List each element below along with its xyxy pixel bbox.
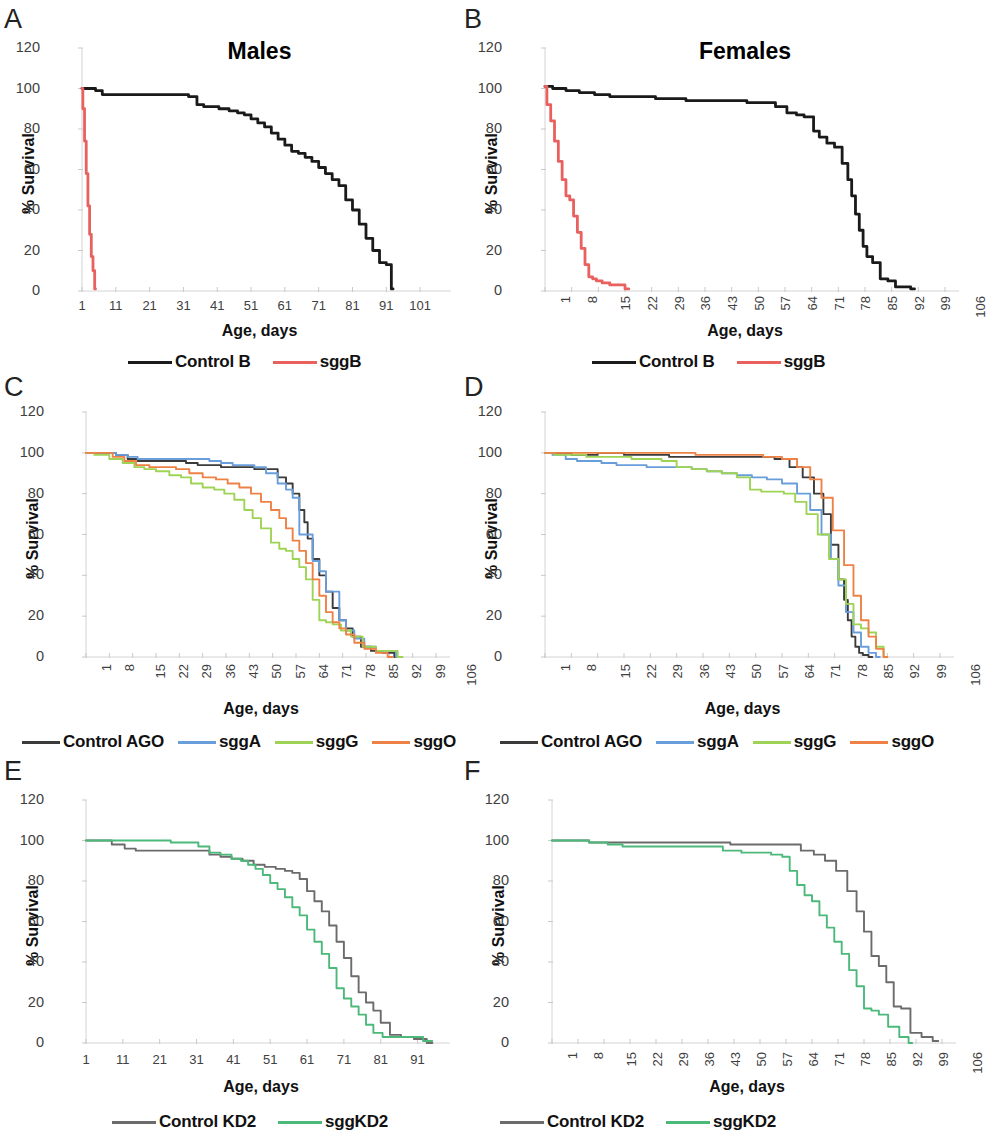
legend-label: sggG (316, 732, 359, 752)
x-tick-b-15: 106 (973, 296, 988, 318)
legend-item-sggo[interactable]: sggO (372, 732, 456, 752)
y-tick-f-5: 100 (475, 832, 509, 848)
y-tick-b-5: 100 (468, 80, 502, 96)
x-tick-f-15: 106 (970, 1052, 985, 1074)
y-tick-d-1: 20 (468, 607, 502, 623)
survival-curve-control-kd2 (86, 841, 432, 1044)
legend-label: sggB (320, 352, 362, 372)
legend-item-sggkd2[interactable]: sggKD2 (666, 1112, 776, 1132)
x-axis-label-b: Age, days (545, 322, 945, 340)
y-tick-f-3: 60 (475, 913, 509, 929)
y-tick-e-6: 120 (10, 791, 44, 807)
x-axis-label-e: Age, days (86, 1078, 436, 1096)
legend-label: sggO (891, 732, 934, 752)
legend-label: sggKD2 (325, 1112, 388, 1132)
y-tick-d-3: 60 (468, 526, 502, 542)
legend-item-sggb[interactable]: sggB (737, 352, 826, 372)
y-tick-a-5: 100 (6, 80, 40, 96)
y-tick-f-4: 80 (475, 872, 509, 888)
survival-curve-sggb (545, 86, 629, 289)
y-tick-a-6: 120 (6, 39, 40, 55)
y-tick-d-4: 80 (468, 485, 502, 501)
y-tick-f-2: 40 (475, 953, 509, 969)
legend-item-sggg[interactable]: sggG (753, 732, 837, 752)
legend-label: sggA (219, 732, 261, 752)
legend-item-control-b[interactable]: Control B (592, 352, 715, 372)
y-tick-d-2: 40 (468, 566, 502, 582)
legend-swatch-control-kd2 (500, 1121, 544, 1124)
y-tick-c-4: 80 (10, 485, 44, 501)
legend-label: Control B (175, 352, 251, 372)
legend-swatch-control-ago (22, 741, 60, 744)
x-tick-c-15: 106 (464, 664, 479, 686)
y-tick-d-6: 120 (468, 403, 502, 419)
legend-item-control-ago[interactable]: Control AGO (500, 732, 642, 752)
y-tick-d-5: 100 (468, 444, 502, 460)
y-tick-a-1: 20 (6, 242, 40, 258)
y-tick-e-3: 60 (10, 913, 44, 929)
legend-c: Control AGOsggAsggGsggO (22, 732, 456, 752)
legend-swatch-sggkd2 (666, 1121, 710, 1124)
legend-swatch-control-b (128, 361, 172, 364)
legend-item-sggg[interactable]: sggG (275, 732, 359, 752)
legend-swatch-control-b (592, 361, 636, 364)
plot-area-c (86, 412, 456, 669)
y-tick-a-3: 60 (6, 161, 40, 177)
legend-item-sggkd2[interactable]: sggKD2 (278, 1112, 388, 1132)
legend-item-control-b[interactable]: Control B (128, 352, 251, 372)
legend-label: sggB (784, 352, 826, 372)
y-tick-b-3: 60 (468, 161, 502, 177)
legend-item-sggo[interactable]: sggO (850, 732, 934, 752)
legend-label: Control AGO (541, 732, 642, 752)
legend-swatch-sgga (178, 741, 216, 744)
legend-label: sggG (794, 732, 837, 752)
legend-item-sggb[interactable]: sggB (273, 352, 362, 372)
panel-letter-c: C (4, 374, 24, 401)
y-tick-a-4: 80 (6, 120, 40, 136)
plot-area-f (552, 800, 962, 1055)
x-axis-label-d: Age, days (545, 700, 940, 718)
y-tick-a-2: 40 (6, 201, 40, 217)
legend-label: Control KD2 (547, 1112, 644, 1132)
y-tick-b-6: 120 (468, 39, 502, 55)
survival-curve-sggg (545, 453, 887, 657)
y-tick-b-0: 0 (468, 282, 502, 298)
plot-area-e (86, 800, 456, 1055)
y-tick-b-4: 80 (468, 120, 502, 136)
legend-item-control-ago[interactable]: Control AGO (22, 732, 164, 752)
legend-swatch-sggg (753, 741, 791, 744)
legend-item-control-kd2[interactable]: Control KD2 (500, 1112, 644, 1132)
legend-swatch-control-kd2 (112, 1121, 156, 1124)
survival-curve-sggg (86, 453, 403, 657)
legend-label: Control KD2 (159, 1112, 256, 1132)
legend-item-sgga[interactable]: sggA (178, 732, 261, 752)
survival-curve-control-b (82, 89, 393, 289)
panel-letter-d: D (464, 374, 484, 401)
survival-curve-sggo (545, 453, 887, 657)
y-tick-b-2: 40 (468, 201, 502, 217)
panel-letter-f: F (464, 758, 481, 785)
y-tick-e-1: 20 (10, 994, 44, 1010)
y-tick-c-1: 20 (10, 607, 44, 623)
legend-item-sgga[interactable]: sggA (656, 732, 739, 752)
plot-area-a (82, 48, 457, 303)
legend-swatch-sgga (656, 741, 694, 744)
y-tick-f-0: 0 (475, 1034, 509, 1050)
legend-swatch-sggg (275, 741, 313, 744)
legend-f: Control KD2sggKD2 (500, 1112, 776, 1132)
y-tick-b-1: 20 (468, 242, 502, 258)
legend-item-control-kd2[interactable]: Control KD2 (112, 1112, 256, 1132)
y-tick-a-0: 0 (6, 282, 40, 298)
survival-curve-control-ago (545, 453, 872, 657)
legend-swatch-sggb (737, 361, 781, 364)
survival-curve-control-b (545, 86, 915, 289)
y-tick-f-1: 20 (475, 994, 509, 1010)
y-tick-e-5: 100 (10, 832, 44, 848)
y-tick-e-4: 80 (10, 872, 44, 888)
y-tick-c-6: 120 (10, 403, 44, 419)
panel-letter-b: B (464, 6, 482, 33)
survival-curve-control-kd2 (552, 841, 938, 1041)
legend-label: Control AGO (63, 732, 164, 752)
x-axis-label-f: Age, days (552, 1078, 942, 1096)
